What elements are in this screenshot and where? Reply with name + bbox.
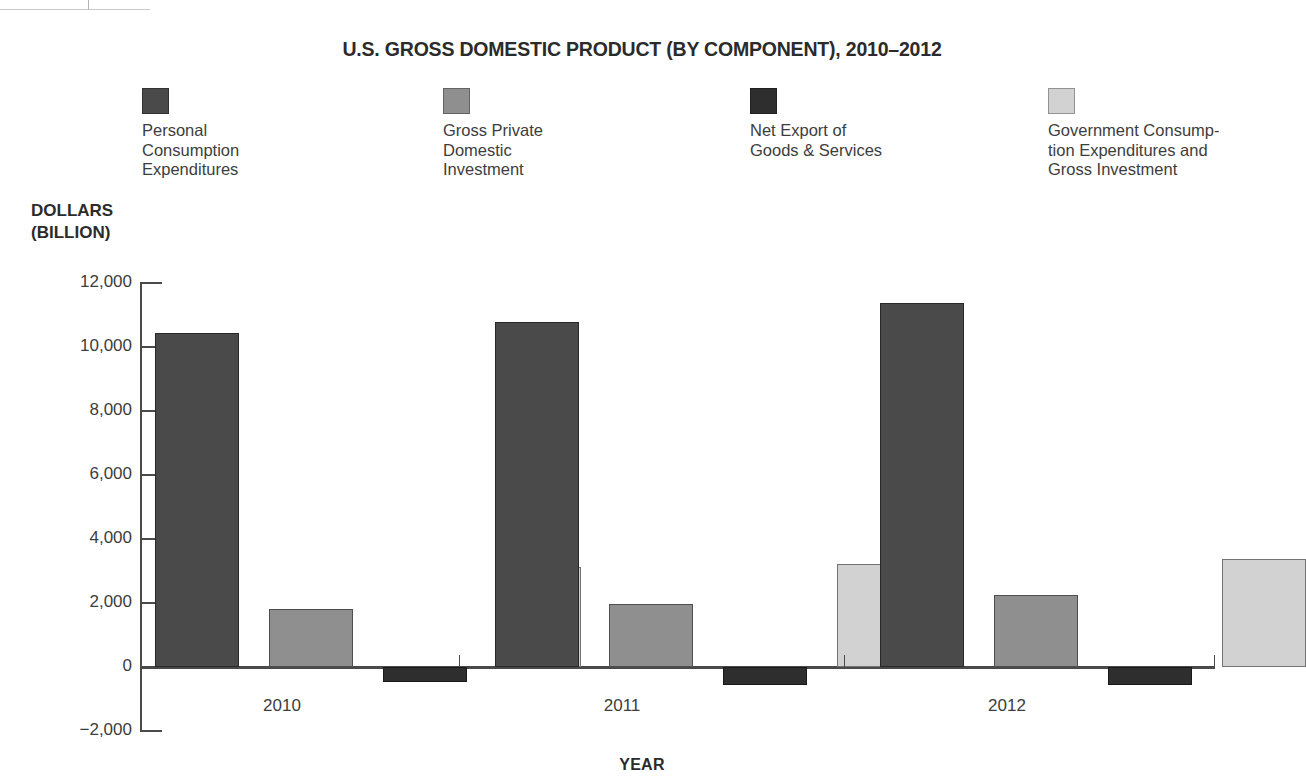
x-axis-category-label: 2010 — [222, 696, 342, 716]
x-axis-category-label: 2011 — [562, 696, 682, 716]
bar — [155, 333, 239, 667]
bar — [1108, 667, 1192, 685]
bar — [383, 667, 467, 682]
y-axis-tick-label: 6,000 — [32, 464, 132, 484]
y-axis-tick-label: 12,000 — [32, 272, 132, 292]
x-axis-end-tick — [1214, 655, 1215, 667]
x-axis-title: YEAR — [0, 756, 1284, 774]
x-axis-group-tick — [459, 655, 460, 667]
bar — [723, 667, 807, 685]
y-axis-line — [140, 283, 142, 731]
bar — [994, 595, 1078, 667]
y-axis-tick-label: −2,000 — [32, 720, 132, 740]
y-axis-tick — [140, 282, 162, 284]
y-axis-tick — [140, 730, 162, 732]
y-axis-tick-label: 2,000 — [32, 592, 132, 612]
x-axis-category-label: 2012 — [947, 696, 1067, 716]
x-axis-group-tick — [844, 655, 845, 667]
bar — [495, 322, 579, 667]
y-axis-tick-label: 10,000 — [32, 336, 132, 356]
y-axis-tick-label: 0 — [32, 656, 132, 676]
bar — [1222, 559, 1306, 667]
bar — [269, 609, 353, 667]
y-axis-tick-label: 8,000 — [32, 400, 132, 420]
y-axis-tick-label: 4,000 — [32, 528, 132, 548]
bar — [609, 604, 693, 667]
bar — [880, 303, 964, 667]
